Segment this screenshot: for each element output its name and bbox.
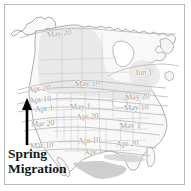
spring-migration-direction-arrow (22, 98, 32, 145)
caption-line: Spring (8, 146, 67, 161)
caption-line: Migration (8, 161, 67, 176)
spring-migration-figure: May 20Jun 1May 10Apr 20May 20Apr 10May 1… (0, 0, 191, 191)
arrow-head-icon (22, 98, 32, 110)
spring-migration-caption: SpringMigration (8, 146, 67, 176)
